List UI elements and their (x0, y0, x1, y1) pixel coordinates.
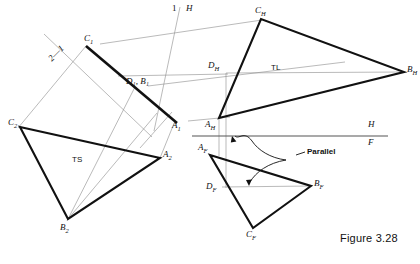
label-B-2: B2 (60, 222, 69, 234)
parallel-arrowhead-bottom (246, 179, 252, 186)
label-A-F: AF (198, 142, 207, 154)
figure-caption: Figure 3.28 (340, 232, 398, 244)
label-A-1: A1 (172, 120, 181, 132)
triangle-f-path (210, 155, 311, 228)
projector-b1-b2 (67, 87, 135, 221)
label-F-lower: F (368, 137, 374, 147)
label-H-upper: H (368, 119, 375, 129)
label-D-H: DH (208, 60, 219, 72)
label-B-F: BF (314, 178, 323, 190)
label-C-H: CH (255, 5, 266, 17)
label-C-F: CF (246, 229, 256, 241)
projector-b (148, 62, 345, 86)
label-TS: TS (72, 155, 82, 164)
ts-interior-line (68, 113, 157, 219)
label-C-2: C2 (8, 117, 17, 129)
parallel-arrowhead-top (231, 136, 237, 143)
label-B-H: BH (407, 64, 417, 76)
label-fold-H: H (186, 3, 193, 13)
parallel-leader-upper (252, 141, 286, 160)
df-bf-line (222, 186, 311, 187)
label-parallel: Parallel (307, 147, 335, 156)
triangle-true-size-view (20, 127, 160, 219)
label-D1-B1: D₁, B₁ (126, 76, 149, 86)
projector-c (100, 20, 262, 44)
triangle-horizontal-view (219, 19, 404, 118)
triangle-ts-path (20, 127, 160, 219)
triangle-frontal-view (210, 155, 311, 228)
tl-line (226, 72, 404, 73)
label-TL: TL (271, 63, 280, 72)
label-fold-1: 1 (172, 3, 177, 13)
parallel-label-leader (296, 152, 305, 155)
label-D-F: DF (206, 181, 216, 193)
fold-line-1-H (154, 7, 180, 131)
label-A-2: A2 (163, 149, 172, 161)
label-C-1: C1 (84, 33, 93, 45)
label-A-H: AH (205, 119, 215, 131)
parallel-leader-lower (250, 160, 286, 182)
triangle-h-path (219, 19, 404, 118)
